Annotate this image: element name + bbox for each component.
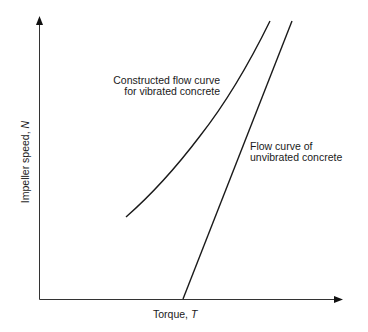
vibrated-flow-curve: [126, 21, 270, 217]
unvibrated-curve-label: Flow curve of unvibrated concrete: [250, 141, 342, 163]
x-axis-label: Torque, T: [153, 308, 197, 320]
unvibrated-label-line2: unvibrated concrete: [250, 152, 342, 163]
flow-curve-plot: [0, 0, 368, 332]
x-axis-symbol: T: [191, 308, 197, 320]
y-axis-symbol: N: [19, 121, 31, 129]
vibrated-curve-label: Constructed flow curve for vibrated conc…: [96, 75, 220, 97]
x-axis-arrow-icon: [334, 296, 343, 303]
y-axis-label-text: Impeller speed,: [19, 128, 31, 203]
y-axis-label: Impeller speed, N: [19, 121, 31, 203]
vibrated-label-line2: for vibrated concrete: [96, 86, 220, 97]
y-axis-arrow-icon: [36, 16, 43, 25]
x-axis-label-text: Torque,: [153, 308, 191, 320]
